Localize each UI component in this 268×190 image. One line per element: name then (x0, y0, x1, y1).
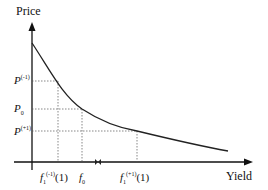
y-axis-label: Price (16, 5, 41, 17)
price-yield-chart (0, 0, 268, 190)
x-axis-label: Yield (226, 170, 252, 182)
f-minus-label: f1(-1)(1) (40, 172, 68, 185)
p-minus-label: P(-1) (14, 75, 30, 86)
f-plus-label: f1(+1)(1) (120, 172, 149, 185)
price-yield-curve (32, 43, 228, 151)
f0-label: f0 (79, 172, 85, 185)
y-axis-arrow-icon (29, 22, 36, 31)
p0-label: P0 (14, 103, 24, 116)
bowtie-marker-icon (95, 159, 101, 165)
guide-lines (32, 81, 137, 162)
x-axis-arrow-icon (244, 159, 253, 166)
p-plus-label: P(+1) (14, 126, 31, 137)
